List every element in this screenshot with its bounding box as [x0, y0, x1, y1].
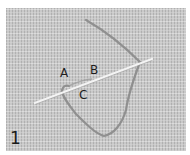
- step-number: 1: [10, 130, 21, 147]
- stitch-illustration: [0, 0, 190, 155]
- point-label-c: C: [79, 89, 87, 101]
- point-label-b: B: [90, 64, 98, 76]
- point-label-a: A: [60, 67, 68, 79]
